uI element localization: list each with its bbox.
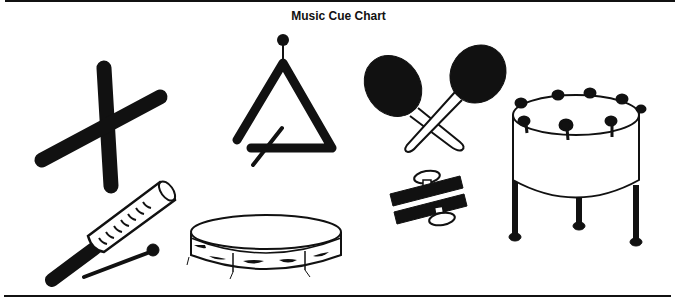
tambourine-icon: [187, 215, 341, 279]
crossed-sticks-icon: [42, 68, 160, 186]
steel-drum-icon: [509, 89, 645, 246]
maracas-icon: [353, 34, 518, 152]
clapper-icon: [390, 169, 467, 227]
bottom-rule: [4, 295, 671, 297]
triangle-icon: [237, 34, 332, 165]
instrument-illustrations: [0, 0, 677, 305]
guiro-icon: [52, 179, 178, 280]
